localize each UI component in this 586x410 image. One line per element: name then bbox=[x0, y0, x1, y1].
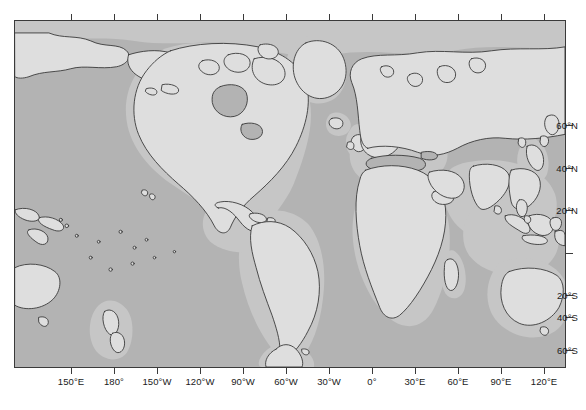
longitude-tick bbox=[243, 368, 244, 374]
longitude-tick-top bbox=[243, 14, 244, 20]
longitude-tick-top bbox=[200, 14, 201, 20]
longitude-label: 90°E bbox=[490, 376, 511, 387]
longitude-label: 60°W bbox=[274, 376, 298, 387]
longitude-tick bbox=[71, 368, 72, 374]
latitude-label: 40°S bbox=[557, 312, 578, 323]
longitude-label: 30°E bbox=[404, 376, 425, 387]
longitude-tick bbox=[372, 368, 373, 374]
longitude-tick-top bbox=[544, 14, 545, 20]
longitude-tick bbox=[458, 368, 459, 374]
map-graphics bbox=[15, 21, 565, 367]
world-map-figure: 150°E180°150°W120°W90°W60°W30°W0°30°E60°… bbox=[0, 0, 586, 410]
latitude-label: 60°N bbox=[556, 120, 578, 131]
longitude-tick-top bbox=[71, 14, 72, 20]
longitude-tick bbox=[286, 368, 287, 374]
longitude-tick-top bbox=[114, 14, 115, 20]
longitude-tick bbox=[501, 368, 502, 374]
longitude-label: 30°W bbox=[317, 376, 341, 387]
longitude-tick bbox=[415, 368, 416, 374]
latitude-label: 20°N bbox=[556, 205, 578, 216]
longitude-tick bbox=[157, 368, 158, 374]
longitude-tick-top bbox=[372, 14, 373, 20]
longitude-tick-top bbox=[415, 14, 416, 20]
longitude-tick-top bbox=[157, 14, 158, 20]
longitude-label: 0° bbox=[367, 376, 376, 387]
longitude-tick-top bbox=[501, 14, 502, 20]
longitude-tick-top bbox=[458, 14, 459, 20]
latitude-label: 40°N bbox=[556, 163, 578, 174]
map-canvas[interactable] bbox=[14, 20, 566, 368]
longitude-label: 120°W bbox=[185, 376, 214, 387]
longitude-label: 150°E bbox=[58, 376, 85, 387]
longitude-tick bbox=[329, 368, 330, 374]
longitude-label: 60°E bbox=[447, 376, 468, 387]
longitude-tick-top bbox=[286, 14, 287, 20]
longitude-label: 180° bbox=[104, 376, 124, 387]
latitude-label: 60°S bbox=[557, 345, 578, 356]
longitude-label: 120°E bbox=[531, 376, 558, 387]
latitude-tick bbox=[566, 253, 573, 254]
longitude-tick bbox=[200, 368, 201, 374]
longitude-tick-top bbox=[329, 14, 330, 20]
longitude-tick bbox=[544, 368, 545, 374]
longitude-tick bbox=[114, 368, 115, 374]
longitude-label: 90°W bbox=[231, 376, 255, 387]
latitude-label: 20°S bbox=[557, 290, 578, 301]
longitude-label: 150°W bbox=[142, 376, 171, 387]
